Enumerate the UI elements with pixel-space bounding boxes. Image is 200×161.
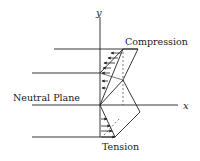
tension-wedge (100, 105, 140, 137)
neutral-plane-label: Neutral Plane (13, 92, 80, 103)
x-axis-label: x (183, 100, 189, 111)
compression-wedge (100, 49, 140, 112)
compression-arrows (102, 53, 121, 88)
tension-label: Tension (102, 141, 139, 152)
bending-stress-diagram: y x Compression Neutral Plane Tension (0, 0, 200, 161)
compression-label: Compression (125, 36, 188, 47)
y-axis-label: y (95, 7, 102, 18)
